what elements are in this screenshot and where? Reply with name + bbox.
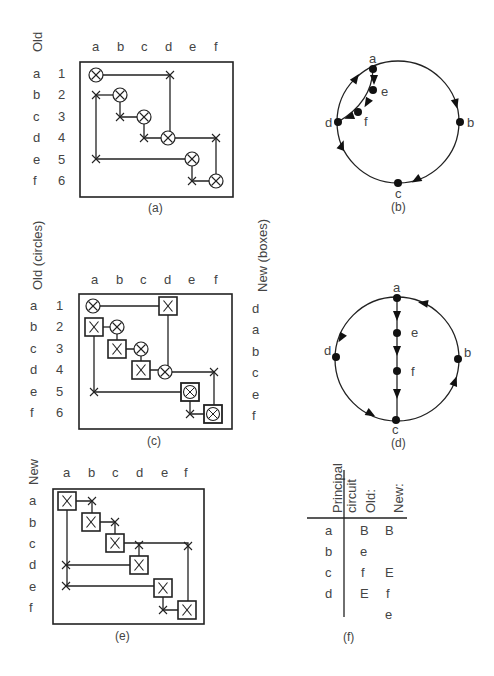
header-principal: Principal <box>330 463 345 513</box>
svg-text:e: e <box>252 387 259 402</box>
svg-text:e: e <box>385 607 392 622</box>
node-label-b: b <box>464 345 471 360</box>
boxed-x-icon <box>159 297 177 315</box>
old-circles-axis-label: Old (circles) <box>30 221 45 290</box>
caption-e: (e) <box>115 629 130 643</box>
svg-text:B: B <box>385 523 394 538</box>
svg-text:b: b <box>117 39 124 54</box>
right-labels: d a b c e f <box>252 301 260 423</box>
svg-text:B: B <box>360 523 369 538</box>
node-e <box>369 86 377 94</box>
svg-text:f: f <box>33 173 37 188</box>
svg-text:d: d <box>30 362 37 377</box>
svg-text:1: 1 <box>58 66 65 81</box>
column-labels: a b c d e f <box>63 465 188 480</box>
svg-text:2: 2 <box>56 319 63 334</box>
svg-text:b: b <box>30 319 37 334</box>
svg-text:e: e <box>161 465 168 480</box>
new-boxes-axis-label: New (boxes) <box>255 219 270 292</box>
svg-text:a: a <box>91 272 99 287</box>
svg-text:6: 6 <box>58 173 65 188</box>
boxed-x-icon <box>154 579 172 597</box>
svg-text:d: d <box>252 301 259 316</box>
panel-e: New a b c d e f a b c d e f <box>26 458 204 643</box>
panel-a: Old a b c d e f a b c d e f 1 2 3 4 5 6 <box>30 32 233 215</box>
boxed-x-icon <box>130 556 148 574</box>
svg-text:f: f <box>214 272 218 287</box>
node-label-b: b <box>467 115 474 130</box>
box-markers <box>85 297 222 423</box>
caption-c: (c) <box>147 434 161 448</box>
node-f <box>354 108 362 116</box>
svg-text:f: f <box>29 600 33 615</box>
node-label-c: c <box>395 186 402 201</box>
boxed-x-icon <box>85 318 103 336</box>
header-new: New: <box>391 483 406 513</box>
svg-text:a: a <box>33 66 41 81</box>
circled-x-icon <box>134 342 148 356</box>
node-a <box>393 294 401 302</box>
svg-text:d: d <box>165 39 172 54</box>
svg-text:a: a <box>63 465 71 480</box>
svg-text:a: a <box>252 322 260 337</box>
node-label-a: a <box>369 51 377 66</box>
svg-text:b: b <box>88 465 95 480</box>
new-axis-label: New <box>26 458 41 485</box>
box-markers <box>58 492 196 619</box>
circled-x-icon <box>209 174 223 188</box>
circled-x-icon <box>185 152 199 166</box>
svg-text:3: 3 <box>58 109 65 124</box>
svg-text:e: e <box>30 384 37 399</box>
svg-text:c: c <box>141 39 148 54</box>
node-a <box>369 65 377 73</box>
svg-text:c: c <box>30 341 37 356</box>
panel-c: Old (circles) New (boxes) a b c d e f a … <box>30 219 270 448</box>
svg-text:5: 5 <box>58 152 65 167</box>
node-label-d: d <box>324 343 331 358</box>
svg-text:e: e <box>29 579 36 594</box>
svg-text:a: a <box>30 298 38 313</box>
column-labels: a b c d e f <box>91 272 218 287</box>
svg-text:e: e <box>360 544 367 559</box>
panel-d: a b c d e f (d) <box>324 280 471 450</box>
node-b <box>456 118 464 126</box>
svg-text:b: b <box>33 87 40 102</box>
svg-text:b: b <box>325 544 332 559</box>
svg-text:a: a <box>29 493 37 508</box>
boxed-x-icon <box>132 361 150 379</box>
svg-text:c: c <box>140 272 147 287</box>
header-old: Old: <box>363 489 378 513</box>
svg-text:c: c <box>29 536 36 551</box>
svg-text:f: f <box>386 586 390 601</box>
boxed-circled-x-icon <box>204 405 222 423</box>
svg-text:E: E <box>385 565 394 580</box>
boxed-x-icon <box>58 492 76 510</box>
svg-text:d: d <box>164 272 171 287</box>
caption-a: (a) <box>148 201 163 215</box>
node-label-d: d <box>325 115 332 130</box>
circled-x-icon <box>158 365 172 379</box>
boxed-circled-x-icon <box>181 383 199 401</box>
svg-text:f: f <box>30 405 34 420</box>
row-labels: a b c d e f 1 2 3 4 5 6 <box>33 66 65 188</box>
svg-text:c: c <box>325 565 332 580</box>
circled-x-icon <box>113 88 127 102</box>
svg-text:b: b <box>29 515 36 530</box>
circled-x-icon <box>161 131 175 145</box>
boxed-x-icon <box>178 601 196 619</box>
boxed-x-icon <box>106 534 124 552</box>
node-b <box>454 355 462 363</box>
svg-text:c: c <box>33 109 40 124</box>
svg-text:d: d <box>136 465 143 480</box>
svg-text:d: d <box>33 130 40 145</box>
circled-x-icon <box>86 299 100 313</box>
svg-text:e: e <box>189 39 196 54</box>
caption-f: (f) <box>343 630 354 644</box>
node-label-c: c <box>392 422 399 437</box>
node-d <box>334 118 342 126</box>
svg-text:5: 5 <box>56 384 63 399</box>
boxed-x-icon <box>82 513 100 531</box>
svg-text:c: c <box>112 465 119 480</box>
circled-x-icon <box>137 110 151 124</box>
node-e <box>393 329 401 337</box>
